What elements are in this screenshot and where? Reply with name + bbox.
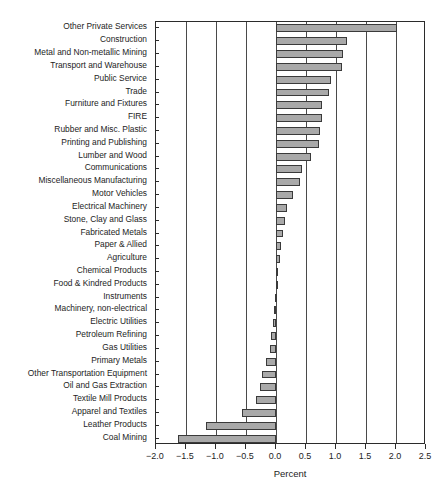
- bar-row: [156, 294, 424, 302]
- bar[interactable]: [266, 358, 276, 366]
- y-axis-tick: [155, 66, 159, 67]
- y-axis-tick: [155, 79, 159, 80]
- bar-row: [156, 281, 424, 289]
- bar[interactable]: [178, 435, 276, 443]
- y-axis-tick: [155, 412, 159, 413]
- bar[interactable]: [276, 281, 278, 289]
- x-axis-tick: [365, 444, 366, 449]
- bar[interactable]: [271, 332, 276, 340]
- bar-row: [156, 24, 424, 32]
- bar-row: [156, 114, 424, 122]
- bar[interactable]: [276, 24, 397, 32]
- bar[interactable]: [276, 255, 280, 263]
- y-axis-tick: [155, 92, 159, 93]
- bar[interactable]: [276, 114, 322, 122]
- bar-row: [156, 153, 424, 161]
- y-axis-label: Furniture and Fixtures: [65, 99, 147, 108]
- bar-row: [156, 76, 424, 84]
- y-axis-tick: [155, 207, 159, 208]
- bar-row: [156, 396, 424, 404]
- bar-row: [156, 230, 424, 238]
- y-axis-label: Fabricated Metals: [80, 228, 147, 237]
- y-axis-tick: [155, 348, 159, 349]
- bar[interactable]: [276, 37, 347, 45]
- bar-row: [156, 191, 424, 199]
- bar[interactable]: [256, 396, 276, 404]
- bar[interactable]: [273, 319, 276, 327]
- bar[interactable]: [276, 217, 285, 225]
- x-axis-tick: [275, 444, 276, 449]
- bar-row: [156, 89, 424, 97]
- y-axis-tick: [155, 309, 159, 310]
- bar[interactable]: [276, 165, 302, 173]
- y-axis-label: Trade: [125, 87, 147, 96]
- chart-title: [0, 0, 439, 6]
- y-axis-label: Stone, Clay and Glass: [64, 215, 147, 224]
- x-axis-tick: [155, 444, 156, 449]
- bar[interactable]: [276, 140, 319, 148]
- bar-row: [156, 217, 424, 225]
- bar[interactable]: [206, 422, 276, 430]
- y-axis-category-labels: Other Private ServicesConstructionMetal …: [0, 21, 151, 444]
- bar-row: [156, 268, 424, 276]
- y-axis-label: Paper & Allied: [94, 240, 147, 249]
- bar-row: [156, 178, 424, 186]
- bar[interactable]: [276, 153, 311, 161]
- bar[interactable]: [276, 242, 281, 250]
- y-axis-tick: [155, 104, 159, 105]
- y-axis-label: Other Transportation Equipment: [28, 369, 147, 378]
- bar[interactable]: [276, 191, 293, 199]
- y-axis-label: Public Service: [94, 74, 147, 83]
- y-axis-tick: [155, 233, 159, 234]
- bar[interactable]: [242, 409, 276, 417]
- y-axis-tick: [155, 438, 159, 439]
- bar[interactable]: [276, 178, 300, 186]
- bar-row: [156, 101, 424, 109]
- y-axis-tick: [155, 386, 159, 387]
- bar-row: [156, 435, 424, 443]
- bar-row: [156, 332, 424, 340]
- bar-row: [156, 165, 424, 173]
- bar[interactable]: [270, 345, 276, 353]
- y-axis-label: Gas Utilities: [102, 343, 147, 352]
- y-axis-label: Coal Mining: [103, 433, 147, 442]
- bar[interactable]: [276, 230, 283, 238]
- y-axis-tick: [155, 374, 159, 375]
- bar[interactable]: [275, 294, 277, 302]
- bar[interactable]: [262, 371, 276, 379]
- bar[interactable]: [276, 204, 287, 212]
- bar-row: [156, 50, 424, 58]
- chart-figure: Other Private ServicesConstructionMetal …: [0, 0, 439, 494]
- y-axis-tick: [155, 297, 159, 298]
- y-axis-label: Other Private Services: [63, 22, 147, 31]
- y-axis-label: FIRE: [128, 112, 147, 121]
- y-axis-tick: [155, 143, 159, 144]
- bar-row: [156, 306, 424, 314]
- plot-area: [155, 21, 425, 444]
- bar[interactable]: [276, 127, 320, 135]
- bar[interactable]: [260, 383, 276, 391]
- y-axis-tick: [155, 130, 159, 131]
- bar[interactable]: [276, 76, 331, 84]
- bar-row: [156, 242, 424, 250]
- y-axis-tick: [155, 322, 159, 323]
- bar-row: [156, 63, 424, 71]
- bar[interactable]: [274, 306, 276, 314]
- bar[interactable]: [276, 50, 343, 58]
- y-axis-tick: [155, 335, 159, 336]
- bar[interactable]: [276, 63, 342, 71]
- y-axis-label: Motor Vehicles: [92, 189, 147, 198]
- x-axis-tick: [305, 444, 306, 449]
- y-axis-tick: [155, 40, 159, 41]
- y-axis-label: Communications: [85, 163, 147, 172]
- x-axis-tick: [425, 444, 426, 449]
- y-axis-tick: [155, 425, 159, 426]
- y-axis-tick: [155, 181, 159, 182]
- y-axis-label: Miscellaneous Manufacturing: [39, 176, 147, 185]
- bar-row: [156, 37, 424, 45]
- bar[interactable]: [276, 89, 329, 97]
- bar[interactable]: [276, 101, 322, 109]
- bar[interactable]: [276, 268, 278, 276]
- bar-row: [156, 409, 424, 417]
- y-axis-label: Food & Kindred Products: [53, 279, 147, 288]
